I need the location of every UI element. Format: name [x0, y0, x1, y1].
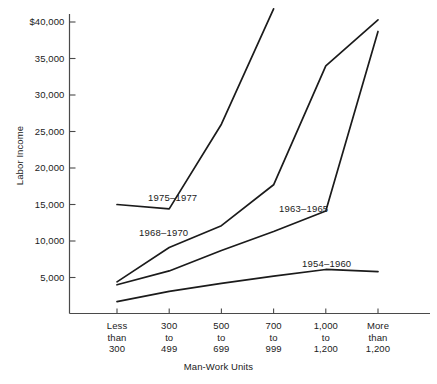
y-axis-ticks	[70, 22, 76, 278]
series-label-1954-1960: 1954–1960	[302, 258, 351, 269]
x-tick-label-line: Less	[87, 320, 147, 332]
x-tick-label-line: 1,200	[296, 343, 356, 355]
x-tick-label-0: Lessthan300	[87, 320, 147, 355]
series-label-1963-1965: 1963–1965	[279, 203, 328, 214]
y-tick-label-25000: 25,000	[35, 126, 65, 137]
x-tick-label-line: More	[348, 320, 408, 332]
x-tick-label-line: than	[87, 332, 147, 344]
x-tick-label-line: to	[244, 332, 304, 344]
series-line-1975-1977	[117, 9, 274, 209]
series-line-1968-1970	[117, 20, 378, 282]
x-tick-label-line: 300	[87, 343, 147, 355]
x-tick-label-4: 1,000to1,200	[296, 320, 356, 355]
x-tick-label-1: 300to499	[139, 320, 199, 355]
y-tick-label-40000: $40,000	[29, 16, 64, 27]
y-axis-title: Labor Income	[14, 106, 25, 206]
x-tick-label-line: 1,000	[296, 320, 356, 332]
labor-income-line-chart: 5,00010,00015,00020,00025,00030,00035,00…	[0, 0, 437, 384]
x-tick-label-line: 499	[139, 343, 199, 355]
series-label-1975-1977: 1975–1977	[148, 192, 197, 203]
x-axis-ticks	[117, 309, 378, 314]
x-tick-label-5: Morethan1,200	[348, 320, 408, 355]
series-label-1968-1970: 1968–1970	[139, 227, 188, 238]
x-tick-label-2: 500to699	[191, 320, 251, 355]
series-line-1963-1965	[117, 31, 378, 284]
x-tick-label-line: than	[348, 332, 408, 344]
y-tick-label-15000: 15,000	[35, 199, 65, 210]
x-tick-label-line: to	[139, 332, 199, 344]
y-tick-label-10000: 10,000	[35, 235, 65, 246]
x-tick-label-line: 699	[191, 343, 251, 355]
x-tick-label-line: 300	[139, 320, 199, 332]
y-tick-label-20000: 20,000	[35, 162, 65, 173]
x-axis-title: Man-Work Units	[0, 361, 437, 372]
y-tick-label-5000: 5,000	[40, 272, 64, 283]
y-tick-label-30000: 30,000	[35, 89, 65, 100]
x-tick-label-line: 999	[244, 343, 304, 355]
x-tick-label-line: 700	[244, 320, 304, 332]
y-tick-label-35000: 35,000	[35, 53, 65, 64]
x-tick-label-line: to	[296, 332, 356, 344]
x-tick-label-3: 700to999	[244, 320, 304, 355]
x-tick-label-line: 1,200	[348, 343, 408, 355]
x-tick-label-line: 500	[191, 320, 251, 332]
x-tick-label-line: to	[191, 332, 251, 344]
